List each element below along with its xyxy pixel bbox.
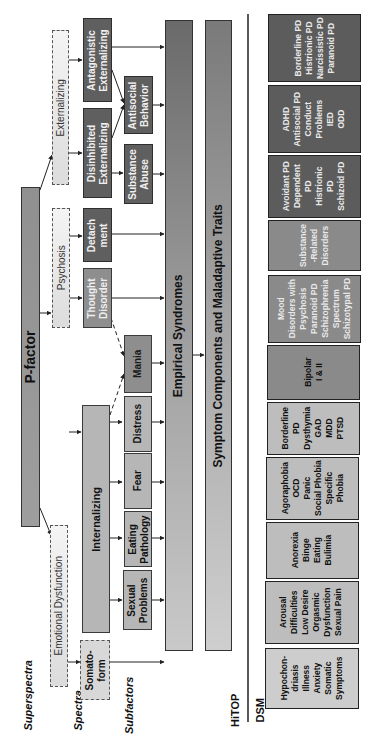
dsm-group-eating: AnorexiaBingeEatingBulimia [266,522,359,579]
spectrum-internalizing: Internalizing [82,405,110,633]
superspectrum-emotional-dysfunction: Emotional Dysfunction [50,525,68,687]
dsm-group-thought-disorder: MoodDisorders withPsychosisParanoid PDSc… [268,275,361,343]
subfactor-substance-abuse: SubstanceAbuse [124,144,153,204]
label-superspectra: Superspectra [14,640,42,750]
subfactor-fear: Fear [124,453,152,509]
dsm-group-detachment: Avoidant PDDependentPDHistrionicPDSchizo… [268,155,361,218]
spectrum-detachment: Detachment [83,208,112,262]
subfactor-distress: Distress [124,396,152,452]
dsm-group-mania: BipolarI & II [267,345,360,400]
subfactor-sexual-problems: SexualProblems [123,570,152,630]
subfactor-eating-pathology: EatingPathology [124,511,152,567]
superspectrum-externalizing: Externalizing [52,30,69,185]
dsm-group-antagonistic: Borderline PDHistrionic PDNarcissistic P… [268,14,361,82]
dsm-group-somatoform: Hypochon-driasisIllnessAnxietySomaticSym… [265,648,359,709]
dsm-group-substance: Substance-RelatedDisorders [268,220,361,271]
spectrum-disinhibited-externalizing: DisinhibitedExternalizing [83,108,112,198]
p-factor-box: P-factor [21,187,40,527]
dsm-group-antisocial: ADHDAntisocial PDConductProblemsIEDODD [268,85,361,153]
dsm-group-distress: BorderlinePDDysthymiaGADMDDPTSD [267,402,360,455]
label-hitop: HiTOP [226,690,246,730]
label-subfactors: Subfactors [116,660,144,750]
subfactor-antisocial-behavior: AntisocialBehavior [124,76,153,134]
superspectrum-psychosis: Psychosis [52,208,70,328]
symptom-components-bar: Symptom Components and Maladaptive Trait… [205,20,232,651]
subfactor-mania: Mania [124,335,152,393]
spectrum-somatoform: Somato-form [80,640,110,700]
spectrum-thought-disorder: ThoughtDisorder [83,268,112,328]
spectrum-antagonistic-externalizing: AntagonisticExternalizing [83,18,112,102]
dsm-group-sexual: ArousalDifficultiesLow DesireOrgasmicDys… [265,581,359,644]
dsm-group-fear: AgoraphobiaOCDPanicSocial PhobiaSpecific… [266,457,359,520]
empirical-syndromes-bar: Empirical Syndromes [165,20,193,651]
